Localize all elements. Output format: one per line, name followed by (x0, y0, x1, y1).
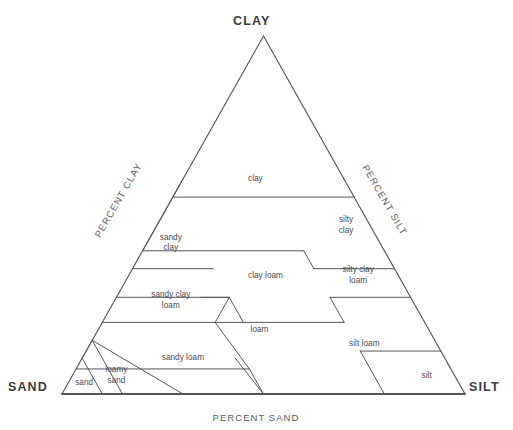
corner-label-clay: CLAY (233, 14, 270, 28)
class-boundary-14 (229, 297, 243, 322)
region-label-silt-loam: silt loam (349, 338, 379, 349)
class-boundary-13 (249, 369, 263, 394)
axis-label-percent-sand: PERCENT SAND (213, 412, 300, 423)
region-label-silty-clay-loam: silty clay loam (343, 265, 374, 287)
region-label-sandy-clay-loam: sandy clay loam (151, 290, 190, 312)
region-label-sandy-loam: sandy loam (162, 353, 204, 364)
region-label-silty-clay: silty clay (339, 215, 354, 237)
class-boundary-18 (82, 340, 92, 358)
corner-label-sand: SAND (8, 380, 48, 394)
triangle-outline (62, 36, 465, 394)
class-boundary-23 (235, 358, 263, 394)
region-label-silt: silt (422, 371, 432, 382)
class-boundary-8 (330, 297, 344, 322)
class-boundary-16 (215, 322, 249, 369)
region-label-clay-loam: clay loam (248, 270, 283, 281)
class-boundary-2 (304, 251, 314, 269)
region-label-loamy-sand: loamy sand (105, 365, 127, 387)
class-boundary-22 (360, 351, 384, 394)
corner-label-silt: SILT (469, 380, 500, 394)
class-boundary-6 (215, 297, 229, 322)
region-label-loam: loam (251, 324, 269, 335)
triangle-svg (0, 0, 513, 430)
soil-texture-triangle: CLAY SAND SILT PERCENT CLAY PERCENT SILT… (0, 0, 513, 430)
region-label-clay: clay (248, 174, 263, 185)
region-label-sandy-clay: sandy clay (160, 233, 182, 255)
region-label-sand: sand (75, 378, 93, 389)
